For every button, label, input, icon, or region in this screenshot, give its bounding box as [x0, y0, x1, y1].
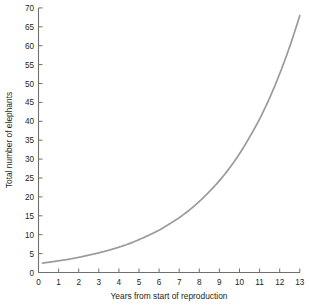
y-tick-label: 5	[29, 250, 34, 259]
x-tick-label: 10	[235, 278, 245, 287]
x-tick-label: 9	[217, 278, 222, 287]
x-tick-label: 11	[255, 278, 264, 287]
y-axis-ticks	[39, 8, 43, 273]
x-tick-label: 0	[36, 278, 41, 287]
y-tick-label: 40	[25, 117, 35, 126]
y-tick-label: 60	[25, 42, 35, 51]
y-tick-label: 65	[25, 23, 35, 32]
y-tick-label: 0	[29, 269, 34, 278]
x-axis-title: Years from start of reproduction	[111, 291, 228, 301]
y-tick-label: 70	[25, 4, 35, 13]
y-axis-title: Total number of elephants	[4, 92, 14, 188]
x-tick-label: 7	[177, 278, 182, 287]
chart-plot-area: 0 5 10 15 20 25 30 35 40 45 50 55 60 65 …	[0, 0, 309, 307]
y-tick-label: 25	[25, 174, 35, 183]
x-tick-label: 12	[275, 278, 285, 287]
y-tick-label: 50	[25, 80, 35, 89]
y-tick-label: 35	[25, 136, 35, 145]
x-tick-label: 3	[97, 278, 102, 287]
x-tick-label: 13	[295, 278, 305, 287]
x-tick-label: 2	[76, 278, 81, 287]
y-tick-label: 10	[25, 231, 35, 240]
chart-figure: 0 5 10 15 20 25 30 35 40 45 50 55 60 65 …	[0, 0, 309, 307]
y-tick-label: 45	[25, 98, 35, 107]
x-tick-label: 5	[137, 278, 142, 287]
elephant-population-curve	[43, 15, 300, 263]
x-tick-label: 8	[197, 278, 202, 287]
x-tick-label: 4	[117, 278, 122, 287]
y-axis-tick-labels: 0 5 10 15 20 25 30 35 40 45 50 55 60 65 …	[25, 4, 35, 278]
x-tick-label: 6	[157, 278, 162, 287]
y-tick-label: 15	[25, 212, 35, 221]
y-tick-label: 30	[25, 155, 35, 164]
x-axis-ticks	[39, 269, 300, 273]
y-tick-label: 55	[25, 61, 35, 70]
y-tick-label: 20	[25, 193, 35, 202]
x-tick-label: 1	[56, 278, 61, 287]
x-axis-tick-labels: 0 1 2 3 4 5 6 7 8 9 10 11 12 13	[36, 278, 305, 287]
